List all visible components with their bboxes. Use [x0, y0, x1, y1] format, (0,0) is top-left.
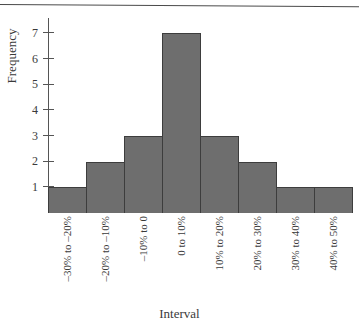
- bar: [238, 162, 277, 213]
- plot-area: 1234567: [48, 18, 352, 213]
- x-tick-label: 10% to 20%: [214, 216, 225, 270]
- x-tick-label: 0 to 10%: [176, 216, 187, 256]
- x-tick-label: 20% to 30%: [252, 216, 263, 270]
- x-tick-label: –20% to –10%: [100, 216, 111, 281]
- page-rule-line: [0, 4, 359, 7]
- y-tick-label: 1: [32, 181, 38, 193]
- y-tick-label: 5: [32, 78, 38, 90]
- bar: [314, 187, 353, 213]
- bar-series: [48, 18, 352, 213]
- y-tick-label: 6: [32, 53, 38, 65]
- bar: [86, 162, 125, 213]
- x-label-cell: 30% to 40%: [276, 216, 314, 300]
- y-axis-title: Frequency: [4, 0, 20, 116]
- bar: [124, 136, 163, 213]
- x-axis-title: Interval: [0, 306, 359, 322]
- x-tick-label: –10% to 0: [138, 216, 149, 261]
- x-label-cell: 10% to 20%: [200, 216, 238, 300]
- x-label-cell: 40% to 50%: [314, 216, 352, 300]
- x-label-cell: –30% to –20%: [48, 216, 86, 300]
- x-label-cell: –20% to –10%: [86, 216, 124, 300]
- x-label-cell: –10% to 0: [124, 216, 162, 300]
- x-tick-label: 40% to 50%: [328, 216, 339, 270]
- y-tick-label: 2: [32, 155, 38, 167]
- y-tick-label: 4: [32, 104, 38, 116]
- bar: [162, 33, 201, 213]
- bar: [48, 187, 87, 213]
- x-tick-label: 30% to 40%: [290, 216, 301, 270]
- bar: [200, 136, 239, 213]
- x-tick-label: –30% to –20%: [62, 216, 73, 281]
- x-label-cell: 0 to 10%: [162, 216, 200, 300]
- histogram-figure: 1234567 –30% to –20%–20% to –10%–10% to …: [0, 0, 359, 330]
- x-label-cell: 20% to 30%: [238, 216, 276, 300]
- y-tick-label: 3: [32, 130, 38, 142]
- x-axis-tick-labels: –30% to –20%–20% to –10%–10% to 00 to 10…: [48, 216, 352, 300]
- y-tick-label: 7: [32, 27, 38, 39]
- bar: [276, 187, 315, 213]
